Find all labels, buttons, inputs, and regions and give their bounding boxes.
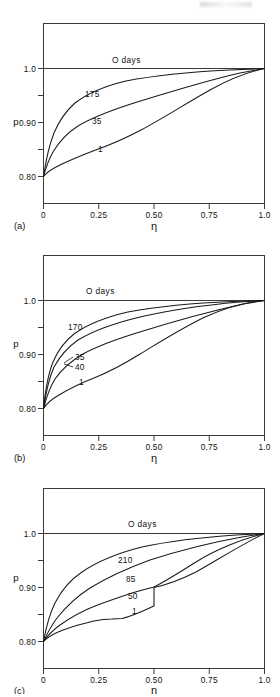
curve-label-1: 1: [98, 144, 103, 154]
x-tick-label-5: 1.0: [258, 675, 270, 685]
curve-label-1: 1: [79, 377, 84, 387]
x-tick-label-2: 0.25: [90, 675, 107, 685]
y-tick-label-1: 1.0: [24, 296, 36, 306]
y-tick-label-3: 0.80: [19, 637, 36, 647]
curve-label-85: 85: [126, 574, 136, 584]
y-tick-label-1: 1.0: [24, 64, 36, 74]
x-tick-label-1: 0: [41, 442, 46, 452]
curve-label-0-days: O days: [86, 286, 115, 296]
x-axis-ticks: [44, 436, 265, 442]
x-tick-label-2: 0.25: [90, 210, 107, 220]
x-tick-label-4: 0.75: [201, 442, 218, 452]
plot-frame: [44, 24, 265, 204]
y-axis-ticks: [38, 69, 44, 177]
curve-label-0-days: O days: [112, 55, 141, 65]
x-axis-ticks: [44, 669, 265, 675]
y-axis-label: p: [13, 572, 18, 583]
y-tick-label-2: 0.90: [19, 583, 36, 593]
y-tick-label-2: 0.90: [19, 350, 36, 360]
panel-label-c: (c): [14, 686, 25, 694]
x-tick-label-2: 0.25: [90, 442, 107, 452]
x-tick-label-1: 0: [41, 675, 46, 685]
curve-label-170: 170: [68, 322, 83, 332]
curve-1: [44, 534, 265, 642]
x-axis-label: η: [151, 684, 157, 694]
panel-label-a: (a): [14, 221, 25, 231]
curve-label-50: 50: [128, 591, 138, 601]
y-axis-label: p: [13, 116, 18, 127]
y-tick-label-1: 1.0: [24, 529, 36, 539]
y-axis-ticks: [38, 301, 44, 409]
curve-1: [44, 69, 265, 177]
curve-label-0-days: O days: [128, 519, 157, 529]
y-tick-label-3: 0.80: [19, 172, 36, 182]
curve-label-40: 40: [75, 362, 85, 372]
x-tick-label-3: 0.50: [146, 442, 163, 452]
figure-three-panel-p-vs-eta: 1.0 0.90 0.80 p 0 0.25 0.50 0.75 1.0 η O…: [0, 0, 280, 697]
curve-label-175: 175: [85, 89, 100, 99]
x-tick-label-1: 0: [41, 210, 46, 220]
plot-frame: [44, 489, 265, 669]
y-axis-label: p: [13, 338, 18, 349]
chart-panel-a: 1.0 0.90 0.80 p 0 0.25 0.50 0.75 1.0 η O…: [0, 0, 280, 232]
y-tick-label-3: 0.80: [19, 404, 36, 414]
x-tick-label-4: 0.75: [201, 675, 218, 685]
curve-label-35: 35: [92, 116, 102, 126]
curve-label-35: 35: [75, 352, 85, 362]
x-tick-label-5: 1.0: [258, 442, 270, 452]
chart-panel-c: 1.0 0.90 0.80 p 0 0.25 0.50 0.75 1.0 η O…: [0, 462, 280, 694]
chart-panel-b: 1.0 0.90 0.80 p 0 0.25 0.50 0.75 1.0 η O…: [0, 232, 280, 464]
x-tick-label-4: 0.75: [201, 210, 218, 220]
y-tick-label-2: 0.90: [19, 118, 36, 128]
x-tick-label-3: 0.50: [146, 210, 163, 220]
x-tick-label-5: 1.0: [258, 210, 270, 220]
curve-label-210: 210: [118, 555, 133, 565]
x-axis-label: η: [151, 220, 157, 232]
curve-label-1: 1: [132, 606, 137, 616]
y-axis-ticks: [38, 534, 44, 642]
x-axis-ticks: [44, 204, 265, 210]
